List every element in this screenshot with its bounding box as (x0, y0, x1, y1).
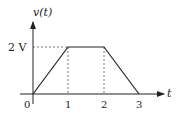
y-level-label: 2 V (8, 41, 27, 54)
waveform-diagram: v(t) t 2 V 0 1 2 3 (0, 0, 180, 115)
x-axis-label: t (167, 87, 172, 100)
tick-3: 3 (136, 99, 142, 110)
tick-2: 2 (101, 99, 107, 110)
tick-1: 1 (65, 99, 71, 110)
tick-0: 0 (24, 99, 30, 110)
waveform-line (33, 47, 139, 94)
y-axis-label: v(t) (33, 6, 52, 19)
